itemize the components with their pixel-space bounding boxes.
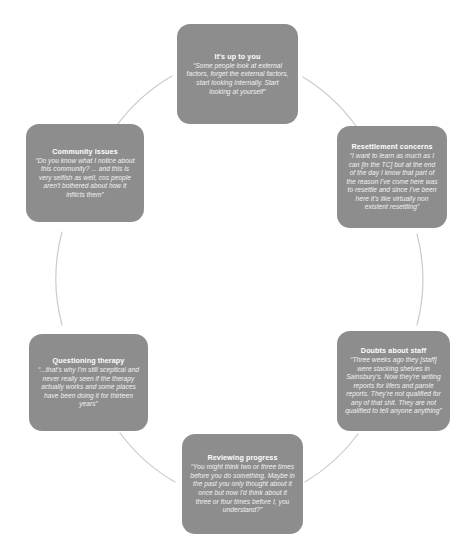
node-title: Community issues bbox=[52, 147, 118, 156]
connector-arc bbox=[303, 77, 358, 129]
connector-arc bbox=[115, 76, 172, 128]
node-title: Questioning therapy bbox=[53, 356, 125, 365]
node-quote: “...that's why I'm still sceptical and n… bbox=[37, 366, 140, 409]
node-quote: “Some people look at external factors, f… bbox=[185, 62, 290, 96]
node-quote: “You might think two or three times befo… bbox=[190, 463, 295, 514]
node-community-issues[interactable]: Community issues “Do you know what I not… bbox=[26, 124, 144, 222]
connector-arc bbox=[417, 234, 423, 325]
node-resettlement-concerns[interactable]: Resettlement concerns “I want to learn a… bbox=[337, 126, 447, 228]
cycle-diagram: It's up to you “Some people look at exte… bbox=[0, 0, 474, 547]
connector-arc bbox=[305, 434, 358, 482]
node-quote: “Do you know what I notice about this co… bbox=[34, 157, 136, 200]
node-reviewing-progress[interactable]: Reviewing progress “You might think two … bbox=[182, 434, 303, 534]
node-title: Doubts about staff bbox=[361, 346, 426, 355]
node-title: It's up to you bbox=[215, 52, 261, 61]
node-its-up-to-you[interactable]: It's up to you “Some people look at exte… bbox=[177, 24, 298, 124]
node-quote: “Three weeks ago they [staff] were stack… bbox=[345, 356, 442, 416]
connector-arc bbox=[56, 232, 62, 325]
node-quote: “I want to learn as much as I can [in th… bbox=[345, 152, 439, 212]
node-doubts-about-staff[interactable]: Doubts about staff “Three weeks ago they… bbox=[337, 331, 450, 431]
node-questioning-therapy[interactable]: Questioning therapy “...that's why I'm s… bbox=[29, 334, 148, 431]
node-title: Resettlement concerns bbox=[351, 142, 432, 151]
node-title: Reviewing progress bbox=[207, 453, 277, 462]
connector-arc bbox=[120, 433, 175, 482]
